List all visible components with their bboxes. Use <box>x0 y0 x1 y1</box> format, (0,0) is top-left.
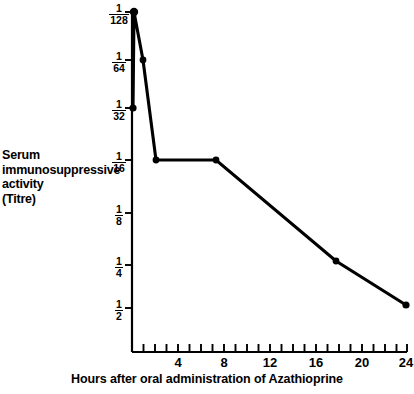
chart-figure: Serum immunosuppressive activity (Titre)… <box>0 0 414 394</box>
data-point <box>402 301 409 308</box>
plot-area <box>0 0 414 394</box>
data-series-line <box>133 12 406 305</box>
x-tick-label-8: 8 <box>210 355 238 370</box>
x-tick-label-20: 20 <box>348 355 376 370</box>
data-point <box>333 258 340 265</box>
data-point <box>140 57 147 64</box>
data-point <box>213 157 220 164</box>
x-axis-title: Hours after oral administration of Azath… <box>0 372 414 386</box>
x-tick-label-16: 16 <box>302 355 330 370</box>
x-axis-ticks <box>144 344 408 352</box>
data-point-markers <box>129 8 409 309</box>
x-tick-label-4: 4 <box>164 355 192 370</box>
data-point <box>129 104 136 111</box>
x-tick-label-12: 12 <box>256 355 284 370</box>
data-point <box>130 8 138 16</box>
x-tick-label-24: 24 <box>392 355 414 370</box>
data-point <box>153 157 160 164</box>
